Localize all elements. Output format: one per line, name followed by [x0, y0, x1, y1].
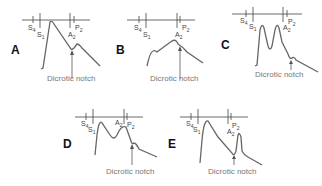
panel-d: S4 S1 A2 P2 D Dicrotic notch [55, 95, 165, 186]
label-subscript: 4 [139, 27, 142, 33]
a2-label-d: A2 [115, 119, 122, 128]
p2-label-d: P2 [127, 121, 134, 130]
s1-label-a: S1 [37, 31, 44, 40]
s4-label-b: S4 [134, 24, 141, 33]
p2-label-a: P2 [75, 24, 82, 33]
s1-label-d: S1 [88, 126, 95, 135]
dicrotic-notch-label-d: Dicrotic notch [106, 167, 154, 176]
label-subscript: 1 [198, 129, 201, 135]
label-subscript: 1 [42, 34, 45, 40]
dicrotic-notch-label-c: Dicrotic notch [255, 70, 303, 79]
p2-label-b: P2 [182, 24, 189, 33]
label-subscript: 2 [288, 27, 291, 33]
panel-e: S4 S1 A2 P2 E Dicrotic notch [160, 95, 270, 186]
label-subscript: 1 [254, 26, 257, 32]
p2-label-c: P2 [288, 18, 295, 27]
panel-label-a: A [11, 43, 20, 57]
dicrotic-notch-label-e: Dicrotic notch [208, 167, 256, 176]
label-subscript: 4 [33, 27, 36, 33]
label-subscript: 2 [293, 21, 296, 27]
label-subscript: 2 [73, 34, 76, 40]
label-subscript: 2 [132, 124, 135, 130]
label-subscript: 1 [148, 34, 151, 40]
panel-a: S4 S1 A2 P2 A Dicrotic notch [0, 0, 108, 92]
label-subscript: 1 [93, 129, 96, 135]
panel-label-d: D [63, 137, 72, 151]
s4-label-c: S4 [240, 17, 247, 26]
label-subscript: 2 [237, 125, 240, 131]
label-subscript: 2 [80, 27, 83, 33]
label-subscript: 2 [120, 122, 123, 128]
label-subscript: 2 [180, 34, 183, 40]
dicrotic-notch-label-b: Dicrotic notch [150, 74, 198, 83]
s1-label-b: S1 [143, 31, 150, 40]
panel-c: S4 S1 A2 P2 C Dicrotic notch [210, 0, 322, 92]
label-subscript: 4 [245, 20, 248, 26]
label-subscript: 2 [187, 27, 190, 33]
s1-label-e: S1 [193, 126, 200, 135]
label-subscript: 2 [232, 131, 235, 137]
panel-label-c: C [221, 38, 230, 52]
dicrotic-notch-label-a: Dicrotic notch [47, 74, 95, 83]
s1-label-c: S1 [249, 23, 256, 32]
p2-label-e: P2 [232, 122, 239, 131]
s4-label-a: S4 [28, 24, 35, 33]
panel-label-b: B [116, 43, 125, 57]
panel-label-e: E [168, 137, 176, 151]
panel-b: S4 S1 A2 P2 B Dicrotic notch [105, 0, 215, 92]
